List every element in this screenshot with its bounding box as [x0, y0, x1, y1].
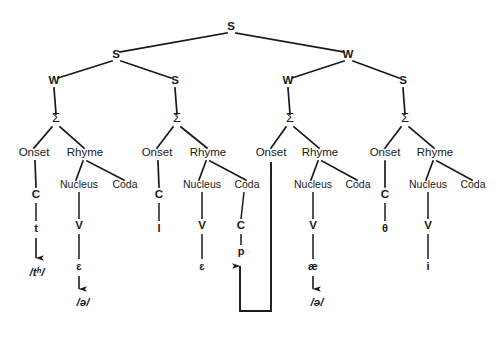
edge-foot2-to-rhyme2 — [181, 127, 207, 148]
syllable-4-nucleus-label: Nucleus — [409, 178, 447, 190]
syllable-3-onset-label: Onset — [256, 146, 287, 158]
syllable-4-coda-label: Coda — [460, 178, 485, 190]
edge-root-to-right-w — [236, 33, 344, 52]
edge-foot1-to-rhyme1 — [60, 127, 84, 148]
syllable-3-nucleus-label: Nucleus — [294, 178, 332, 190]
edge-w-to-s4 — [353, 61, 399, 78]
syllable-2-nucleus-label: Nucleus — [183, 178, 221, 190]
foot-node-2: Σ — [173, 110, 181, 125]
grid-node-level3-s4: S — [399, 74, 407, 86]
onset-rhyme-labels: Onset Rhyme Onset Rhyme Onset Rhyme Onse… — [19, 146, 454, 158]
edge-coda2-to-c — [241, 192, 244, 219]
edge-onset2-to-c — [158, 161, 159, 187]
syllable-4-onset-label: Onset — [370, 146, 401, 158]
grid-node-level2-w: W — [343, 48, 354, 60]
syllable-1-onset-segment-t: t — [34, 222, 38, 234]
syllable-2-coda-segment-p: p — [238, 245, 245, 257]
constituent-to-slot-edges — [79, 192, 428, 219]
syllable-2-nucleus-v-slot: V — [198, 219, 206, 231]
edge-onset1-to-c — [35, 161, 36, 187]
output-aspirated-t: /tʰ/ — [29, 266, 47, 278]
grid-node-root-s: S — [227, 20, 235, 32]
syllable-2-coda-c-slot: C — [237, 219, 245, 231]
edge-foot3-to-onset3 — [271, 127, 286, 148]
grid-node-level3-w3: W — [283, 74, 294, 86]
syllable-2-onset-label: Onset — [142, 146, 173, 158]
syllable-1-nucleus-segment-epsilon: ɛ — [76, 260, 82, 272]
syllable-1-rhyme-label: Rhyme — [67, 146, 103, 158]
syllable-2-nucleus-segment-epsilon: ɛ — [199, 260, 205, 272]
syllable-1-nucleus-v-slot: V — [75, 219, 83, 231]
syllable-4-onset-c-slot: C — [381, 188, 389, 200]
syllable-2-rhyme-label: Rhyme — [190, 146, 226, 158]
slot-to-segment-edges — [36, 203, 428, 259]
syllable-3-nucleus-v-slot: V — [309, 219, 317, 231]
output-schwa-3: /ə/ — [310, 296, 326, 308]
edge-foot2-to-onset2 — [157, 127, 173, 148]
metrical-grid-labels: S S W W S W S — [49, 20, 408, 86]
foot-to-syllable-edges — [34, 127, 434, 148]
syllable-1-onset-label: Onset — [19, 146, 50, 158]
edge-root-to-left-s — [120, 33, 227, 52]
edge-foot4-to-onset4 — [385, 127, 401, 148]
tree-svg-canvas: S S W W S W S Σ Σ Σ Σ — [0, 0, 504, 344]
syllable-4-nucleus-v-slot: V — [424, 219, 432, 231]
grid-to-foot-edges — [54, 88, 405, 114]
syllable-1-onset-c-slot: C — [32, 188, 40, 200]
nucleus-coda-labels: Nucleus Coda Nucleus Coda Nucleus Coda N… — [60, 178, 486, 190]
foot-labels: Σ Σ Σ Σ — [52, 110, 409, 125]
syllable-tree-diagram: S S W W S W S Σ Σ Σ Σ — [0, 0, 504, 344]
output-schwa-1: /ə/ — [76, 296, 92, 308]
foot-node-3: Σ — [286, 110, 294, 125]
cv-slot-labels: C C C V V V V C — [32, 188, 432, 231]
syllable-4-nucleus-segment-i: i — [426, 260, 429, 272]
syllable-4-onset-segment-theta: θ — [382, 222, 388, 234]
syllable-2-onset-segment-l: l — [157, 222, 160, 234]
syllable-3-coda-label: Coda — [345, 178, 370, 190]
edge-w-to-w3 — [292, 61, 344, 78]
edge-s-to-w1 — [58, 61, 112, 78]
segment-labels: t l θ ɛ ɛ æ i p — [34, 222, 429, 272]
grid-node-level2-s: S — [112, 48, 120, 60]
foot-node-4: Σ — [401, 110, 409, 125]
syllable-4-rhyme-label: Rhyme — [417, 146, 453, 158]
grid-node-level3-s2: S — [171, 74, 179, 86]
syllable-2-onset-c-slot: C — [155, 188, 163, 200]
edge-foot4-to-rhyme4 — [409, 127, 434, 148]
foot-node-1: Σ — [52, 110, 60, 125]
grid-node-level3-w1: W — [49, 74, 60, 86]
edge-s-to-s2 — [121, 61, 171, 78]
phonetic-output-labels: /tʰ/ /ə/ /ə/ — [29, 266, 326, 308]
syllable-2-coda-label: Coda — [234, 178, 259, 190]
syllable-3-rhyme-label: Rhyme — [302, 146, 338, 158]
syllable-3-nucleus-segment-ash: æ — [308, 260, 318, 272]
syllable-1-nucleus-label: Nucleus — [60, 178, 98, 190]
edge-foot1-to-onset1 — [34, 127, 52, 148]
edge-foot3-to-rhyme3 — [294, 127, 319, 148]
syllable-1-coda-label: Coda — [112, 178, 137, 190]
